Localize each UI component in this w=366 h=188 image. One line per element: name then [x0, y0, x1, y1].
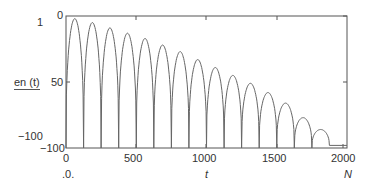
series-line	[66, 19, 347, 148]
plot-area	[0, 0, 366, 188]
